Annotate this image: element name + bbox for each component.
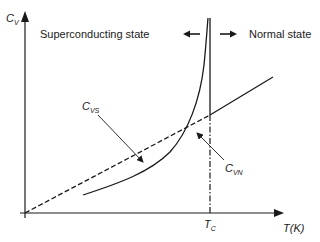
cvn-label: CVN: [225, 162, 244, 176]
cvs-label: CVS: [82, 100, 100, 114]
y-axis-label: CV: [6, 12, 20, 26]
superconducting-state-label: Superconducting state: [40, 28, 149, 40]
cvs-pointer-arrow-icon: [98, 115, 143, 162]
cvn-pointer-arrow-icon: [197, 133, 224, 160]
x-axis: [20, 209, 284, 217]
y-axis-arrow-icon: [21, 11, 29, 22]
y-axis: [21, 11, 29, 218]
cvn-solid-line: [210, 77, 273, 115]
cvn-dashed-line: [25, 115, 210, 213]
arrow-right-icon: [220, 31, 237, 38]
arrow-left-icon: [183, 31, 200, 38]
cvs-curve: [83, 18, 208, 195]
normal-state-label: Normal state: [249, 28, 311, 40]
specific-heat-chart: CV Superconducting state Normal state CV…: [0, 0, 320, 242]
x-axis-label: T(K): [283, 222, 305, 234]
x-axis-arrow-icon: [274, 209, 284, 217]
tc-tick-label: TC: [204, 218, 217, 232]
